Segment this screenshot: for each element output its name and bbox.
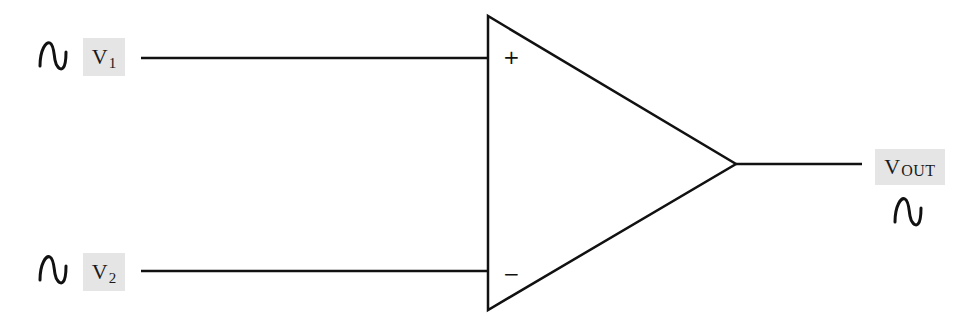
v2-label-main: V — [92, 261, 108, 283]
sine-wave-icon — [40, 43, 66, 69]
vout-label-main: V — [884, 156, 900, 178]
v1-label-sub: 1 — [109, 56, 117, 71]
inverting-terminal-sign: − — [503, 264, 520, 284]
v1-label: V1 — [83, 38, 125, 76]
non-inverting-terminal-sign: + — [503, 47, 520, 67]
v2-label: V2 — [83, 253, 125, 291]
vout-label: VOUT — [875, 149, 945, 185]
v2-label-sub: 2 — [109, 271, 117, 286]
sine-wave-icon — [895, 199, 921, 225]
vout-label-sub: OUT — [901, 163, 935, 179]
sine-wave-icon — [40, 257, 66, 283]
op-amp-triangle — [488, 16, 736, 310]
v1-label-main: V — [92, 46, 108, 68]
op-amp-diagram — [0, 0, 973, 326]
